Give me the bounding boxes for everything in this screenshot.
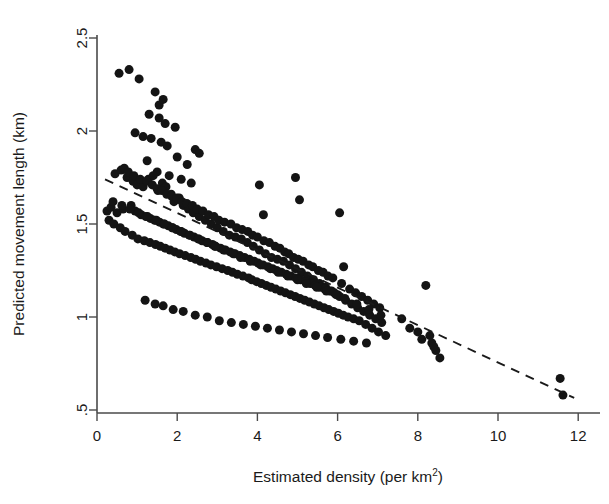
data-point: [210, 242, 219, 251]
y-tick-label-.5: .5: [73, 404, 90, 417]
data-point: [171, 123, 180, 132]
data-point: [302, 279, 311, 288]
y-tick-label-2: 2: [73, 127, 90, 135]
data-point: [364, 305, 373, 314]
y-axis-title: Predicted movement length (km): [10, 112, 27, 336]
data-point: [151, 87, 160, 96]
data-point: [362, 339, 371, 348]
data-point: [152, 216, 161, 225]
x-tick-label-10: 10: [490, 427, 507, 444]
data-point: [194, 234, 203, 243]
data-point: [381, 331, 390, 340]
scatter-chart-figure: 024681012.511.522.5 Estimated density (p…: [0, 0, 609, 504]
data-point: [169, 305, 178, 314]
data-point: [275, 326, 284, 335]
x-tick-label-0: 0: [93, 427, 101, 444]
data-point: [335, 208, 344, 217]
data-point: [143, 156, 152, 165]
data-point: [239, 320, 248, 329]
data-point: [256, 260, 265, 269]
data-point: [340, 294, 349, 303]
data-point: [429, 342, 438, 351]
data-point: [291, 173, 300, 182]
data-point: [159, 95, 168, 104]
data-point: [405, 324, 414, 333]
data-point: [425, 331, 434, 340]
data-point: [173, 153, 182, 162]
data-point: [109, 197, 118, 206]
data-point: [191, 311, 200, 320]
data-point: [145, 110, 154, 119]
data-point: [283, 272, 292, 281]
x-tick-label-6: 6: [333, 427, 341, 444]
data-point: [135, 74, 144, 83]
data-point: [311, 331, 320, 340]
data-point: [183, 160, 192, 169]
data-point: [139, 132, 148, 141]
data-point: [337, 279, 346, 288]
data-point: [186, 231, 195, 240]
data-point: [251, 322, 260, 331]
x-tick-label-4: 4: [253, 427, 261, 444]
data-point: [131, 128, 140, 137]
data-point: [219, 246, 228, 255]
data-point: [352, 299, 361, 308]
data-point: [236, 253, 245, 262]
data-point: [295, 195, 304, 204]
data-point: [339, 262, 348, 271]
data-point: [187, 179, 196, 188]
data-point: [177, 227, 186, 236]
data-point: [134, 208, 143, 217]
data-point: [266, 264, 275, 273]
data-point: [417, 335, 426, 344]
data-point: [117, 201, 126, 210]
data-point: [322, 286, 331, 295]
data-point: [165, 171, 174, 180]
data-point: [195, 149, 204, 158]
data-point: [293, 275, 302, 284]
data-point: [161, 119, 170, 128]
data-point: [323, 333, 332, 342]
data-point: [163, 141, 172, 150]
data-point: [125, 65, 134, 74]
data-point: [263, 324, 272, 333]
data-point: [168, 223, 177, 232]
data-point: [177, 175, 186, 184]
data-point: [255, 180, 264, 189]
data-point: [143, 212, 152, 221]
data-point: [151, 299, 160, 308]
x-tick-label-12: 12: [570, 427, 587, 444]
data-point: [125, 205, 134, 214]
data-point: [556, 374, 565, 383]
data-point: [115, 69, 124, 78]
data-point: [141, 296, 150, 305]
data-point: [336, 335, 345, 344]
x-tick-label-2: 2: [173, 427, 181, 444]
data-point: [332, 290, 341, 299]
data-point: [159, 301, 168, 310]
data-point: [147, 134, 156, 143]
x-tick-label-8: 8: [414, 427, 422, 444]
data-point: [246, 257, 255, 266]
data-point: [160, 220, 169, 229]
y-tick-label-2.5: 2.5: [73, 28, 90, 49]
x-axis-title: Estimated density (per km2): [253, 467, 443, 485]
y-tick-label-1: 1: [73, 313, 90, 321]
data-point: [215, 316, 224, 325]
data-point: [435, 353, 444, 362]
axis-ticks: 024681012.511.522.5: [73, 28, 587, 444]
scatter-points: [103, 65, 568, 400]
data-point: [203, 313, 212, 322]
chart-canvas: 024681012.511.522.5 Estimated density (p…: [0, 0, 609, 504]
data-point: [227, 318, 236, 327]
data-point: [287, 327, 296, 336]
data-point: [328, 273, 337, 282]
data-point: [259, 210, 268, 219]
data-point: [312, 283, 321, 292]
y-tick-label-1.5: 1.5: [73, 214, 90, 235]
data-point: [349, 337, 358, 346]
data-point: [299, 329, 308, 338]
data-point: [274, 268, 283, 277]
data-point: [376, 311, 385, 320]
data-point: [179, 307, 188, 316]
